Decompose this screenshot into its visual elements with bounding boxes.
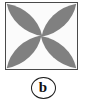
caption-circle-badge: b: [31, 77, 56, 99]
figure-label-letter: b: [39, 80, 47, 96]
figure-container: b: [0, 0, 86, 101]
figure-caption: b: [0, 74, 86, 101]
image-panel: [5, 2, 78, 70]
quatrefoil-pattern: [6, 3, 77, 69]
